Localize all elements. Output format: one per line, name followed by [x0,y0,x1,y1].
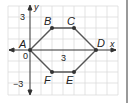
label-B: B [44,15,51,27]
tick-label-x3: 3 [61,53,66,63]
origin-label: 0 [23,51,28,61]
y-axis-label: y [33,2,39,12]
label-D: D [97,37,105,49]
side-divider [126,0,128,103]
coordinate-plane-diagram: A B C D E F x y 0 3 3 −3 [0,0,131,103]
tick-label-y3: 3 [20,12,25,22]
label-A: A [18,38,26,50]
x-axis-label: x [109,39,115,49]
label-F: F [44,74,52,86]
label-C: C [67,15,75,27]
label-E: E [66,74,74,86]
axes [9,5,116,95]
tick-label-yneg3: −3 [13,79,23,89]
